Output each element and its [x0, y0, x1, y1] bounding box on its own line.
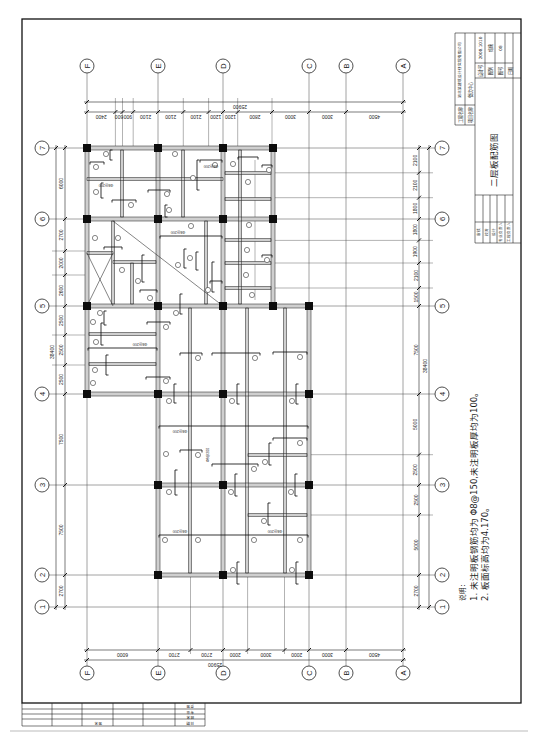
- dim-top-segment: 1200: [225, 114, 236, 120]
- countersign-column-label: 专业: [186, 710, 194, 715]
- sheet-frame: [22, 19, 521, 703]
- dimensions-left: 38400 6000 2700 2000 2600 2500 2500 2500…: [49, 178, 64, 597]
- axis-label-F: F: [83, 63, 92, 68]
- dim-top-segment: 2800: [249, 114, 260, 120]
- axis-bubbles-left: 7 6 5 4 3 2 1: [35, 141, 49, 614]
- axis-bubbles-top: F E D C B A: [80, 59, 410, 73]
- note-item-1: 1. 未注明板钢筋均为 Φ8@150,未注明板厚均为100。: [469, 388, 479, 601]
- signature-reviewer: 审核: [476, 228, 481, 236]
- dim-left-segment: 2500: [58, 374, 64, 385]
- axis-label-E: E: [154, 670, 163, 675]
- axis-label-E: E: [154, 63, 163, 68]
- axis-label-C: C: [305, 63, 314, 69]
- field-value-design-no: 2008.1010: [478, 36, 483, 59]
- dim-top-segment: 2100: [190, 114, 201, 120]
- structural-drawing-sheet: Φ8@200 Φ8@200 Φ8@200 Φ8@200 Φ8@200 Φ8@20…: [0, 0, 536, 745]
- title-block-grid: [455, 33, 521, 243]
- dim-left-total: 38400: [49, 345, 55, 359]
- dim-top-segment: 3000: [285, 114, 296, 120]
- dim-top-segment: 2400: [95, 114, 106, 120]
- dim-right-segment: 2100: [413, 180, 419, 191]
- axis-label-6: 6: [438, 217, 447, 221]
- dim-bottom-segment: 2700: [169, 652, 180, 658]
- item-label: 项目名称: [467, 107, 474, 123]
- dim-bottom-segment: 6000: [117, 652, 128, 658]
- axis-label-6: 6: [38, 217, 47, 221]
- general-notes: 说明： 1. 未注明板钢筋均为 Φ8@150,未注明板厚均为100。 2. 板面…: [458, 388, 490, 601]
- axis-label-4: 4: [38, 392, 47, 396]
- dim-left-segment: 2700: [58, 585, 64, 596]
- project-value: 餐饮中心: [467, 81, 474, 98]
- field-label-date: 日期: [508, 67, 514, 75]
- slab-label: Φ8@200: [173, 529, 188, 533]
- dim-left-segment: 7500: [58, 524, 64, 535]
- dim-right-segment: 1500: [413, 291, 419, 302]
- dim-left-segment: 2500: [58, 344, 64, 355]
- dim-bottom-segment: 2000: [230, 652, 241, 658]
- notes-heading: 说明：: [458, 580, 467, 601]
- axis-label-4: 4: [438, 392, 447, 396]
- countersign-table: 签名 会签 专业 姓名 日期: [22, 703, 205, 726]
- field-value-sheet-no: 08: [498, 45, 503, 51]
- dim-left-segment: 2700: [58, 229, 64, 240]
- dim-top-segment: 900: [124, 114, 133, 120]
- dim-right-segment: 5000: [413, 539, 419, 550]
- dim-left-segment: 7500: [58, 434, 64, 445]
- dim-right-segment: 1800: [413, 224, 419, 235]
- field-label-sheet-no: 图号: [498, 67, 504, 75]
- dim-right-segment: 2500: [413, 494, 419, 505]
- beams: [85, 146, 311, 577]
- dimensions-right: 38400 2100 2100 1800 1800 1900 2100 1500…: [413, 155, 429, 597]
- axis-label-2: 2: [38, 573, 47, 577]
- dim-right-segment: 5000: [413, 419, 419, 430]
- signature-checker: 校对: [484, 228, 489, 236]
- dim-right-segment: 2100: [413, 155, 419, 166]
- slab-label: Φ8@200: [173, 429, 188, 433]
- countersign-column-label: 姓名: [186, 715, 194, 720]
- axis-label-D: D: [219, 670, 228, 676]
- axis-label-5: 5: [438, 304, 447, 308]
- dim-top-total: 25900: [233, 104, 247, 110]
- axis-label-1: 1: [438, 605, 447, 609]
- dim-bottom-segment: 3000: [260, 652, 271, 658]
- axis-label-3: 3: [38, 483, 47, 487]
- axis-label-5: 5: [38, 304, 47, 308]
- slab-label: Φ8@200: [133, 342, 148, 346]
- countersign-cell-label: 签名: [94, 721, 102, 726]
- axis-label-3: 3: [438, 483, 447, 487]
- axis-label-7: 7: [438, 146, 447, 150]
- dim-bottom-segment: 4500: [369, 652, 380, 658]
- slab-label: Φ8@200: [99, 183, 114, 187]
- dim-bottom-total: 25900: [208, 662, 222, 668]
- countersign-grid: [22, 703, 205, 726]
- axis-label-1: 1: [38, 605, 47, 609]
- dim-right-segment: 1900: [413, 246, 419, 257]
- field-label-design-no: 设计号: [477, 65, 484, 77]
- dim-top-segment: 2100: [140, 114, 151, 120]
- axis-label-C: C: [305, 670, 314, 676]
- extension-lines: [52, 98, 433, 654]
- note-item-2: 2. 板面标高均为4.170。: [480, 503, 490, 601]
- axis-label-D: D: [219, 63, 228, 69]
- dim-right-segment: 2100: [413, 270, 419, 281]
- dim-top-segment: 4500: [369, 114, 380, 120]
- axis-label-B: B: [342, 63, 351, 68]
- slab-label: Φ8@200: [268, 529, 283, 533]
- project-label: 工程名称: [457, 107, 464, 123]
- dim-bottom-segment: 2700: [201, 652, 212, 658]
- dim-bottom-segment: 3000: [322, 652, 333, 658]
- dim-right-segment: 1800: [413, 203, 419, 214]
- dim-top-segment: 3000: [322, 114, 333, 120]
- dim-left-segment: 2600: [58, 285, 64, 296]
- slab-label: Φ8@200: [171, 230, 186, 234]
- axis-label-F: F: [83, 670, 92, 675]
- axis-label-A: A: [399, 63, 408, 68]
- axis-label-7: 7: [38, 146, 47, 150]
- signature-designer: 设计: [491, 228, 496, 236]
- signature-project-lead: 工程负责人: [506, 222, 511, 242]
- countersign-column-label: 会签: [186, 704, 194, 709]
- axis-label-B: B: [342, 670, 351, 675]
- axis-label-A: A: [399, 670, 408, 675]
- drawing-title: 二层板配筋图: [489, 133, 499, 187]
- dim-top-segment: 2100: [165, 114, 176, 120]
